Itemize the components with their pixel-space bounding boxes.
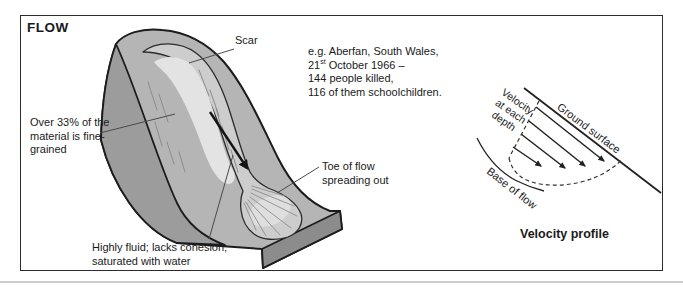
figure-canvas: FLOW Scar Over 33% of the material is fi… bbox=[0, 0, 683, 287]
fine-grained-label: Over 33% of the material is fine- graine… bbox=[30, 116, 110, 157]
fine-grained-line-1: Over 33% of the bbox=[30, 116, 110, 130]
fine-grained-line-3: grained bbox=[30, 143, 110, 157]
ground-surface-line bbox=[524, 88, 661, 193]
example-line-2: 21st October 1966 – bbox=[308, 59, 442, 73]
fluid-line-1: Highly fluid; lacks cohesion; bbox=[92, 241, 227, 255]
velocity-profile-caption: Velocity profile bbox=[520, 227, 609, 241]
toe-line-1: Toe of flow bbox=[322, 160, 389, 174]
fine-grained-line-2: material is fine- bbox=[30, 130, 110, 144]
scan-artifact-line bbox=[0, 281, 683, 283]
toe-line-2: spreading out bbox=[322, 174, 389, 188]
example-note: e.g. Aberfan, South Wales, 21st October … bbox=[308, 45, 442, 99]
hillside-illustration bbox=[101, 30, 342, 268]
example-line-3: 144 people killed, bbox=[308, 72, 442, 86]
example-line-1: e.g. Aberfan, South Wales, bbox=[308, 45, 442, 59]
fluid-line-2: saturated with water bbox=[92, 255, 227, 269]
highly-fluid-label: Highly fluid; lacks cohesion; saturated … bbox=[92, 241, 227, 268]
toe-of-flow-label: Toe of flow spreading out bbox=[322, 160, 389, 187]
example-line-4: 116 of them schoolchildren. bbox=[308, 86, 442, 100]
figure-title: FLOW bbox=[27, 20, 69, 35]
scar-label: Scar bbox=[235, 34, 258, 48]
